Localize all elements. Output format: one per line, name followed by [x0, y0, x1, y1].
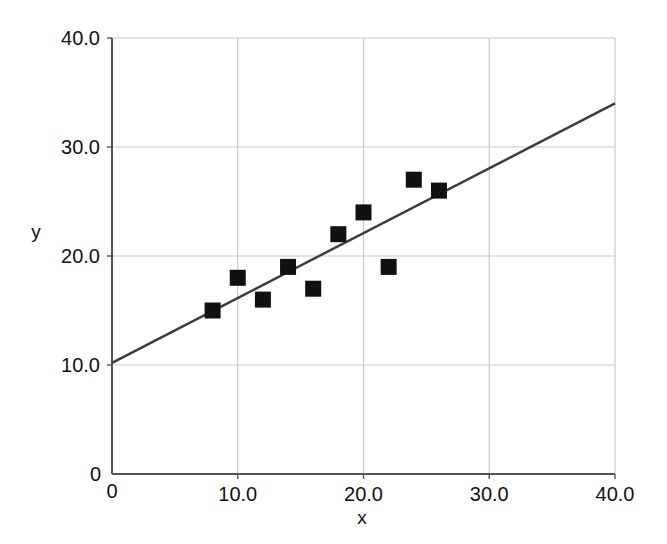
data-point-marker — [406, 172, 422, 188]
y-tick-label: 40.0 — [61, 27, 100, 49]
data-point-marker — [230, 270, 246, 286]
data-point-marker — [280, 259, 296, 275]
x-axis-title: x — [357, 507, 367, 528]
x-tick-label: 20.0 — [344, 483, 383, 505]
x-axis-origin-label: 0 — [106, 480, 117, 502]
x-tick-label: 30.0 — [470, 483, 509, 505]
x-tick-label: 40.0 — [596, 483, 635, 505]
data-point-marker — [356, 204, 372, 220]
data-point-marker — [330, 226, 346, 242]
data-point-marker — [381, 259, 397, 275]
y-tick-label: 10.0 — [61, 354, 100, 376]
y-axis-origin-label: 0 — [90, 463, 101, 485]
data-point-marker — [431, 183, 447, 199]
y-axis-title: y — [31, 221, 41, 242]
x-tick-label: 10.0 — [218, 483, 257, 505]
data-point-marker — [305, 281, 321, 297]
chart-canvas: 10.020.030.040.0 10.020.030.040.0 x y 0 … — [0, 0, 667, 544]
data-point-marker — [205, 303, 221, 319]
y-tick-label: 30.0 — [61, 136, 100, 158]
scatter-chart: 10.020.030.040.0 10.020.030.040.0 x y 0 … — [0, 0, 667, 544]
data-point-marker — [255, 292, 271, 308]
y-tick-label: 20.0 — [61, 245, 100, 267]
